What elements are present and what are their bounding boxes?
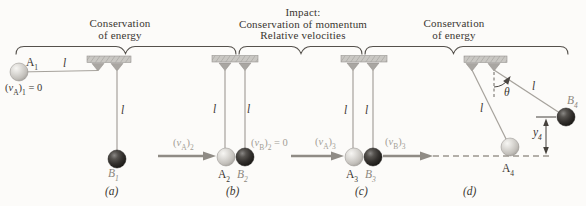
theta-label: θ [504,86,510,98]
caption-c: (c) [355,185,368,197]
string-length-label-a-vertical: l [121,104,124,116]
ball-b3-label: B3 [365,168,376,180]
ball-a3 [345,148,363,166]
header-conservation-energy-right: Conservation of energy [393,18,515,41]
ball-b2-label: B2 [237,168,248,180]
ball-b1 [108,150,126,168]
arrow-va3 [291,152,344,161]
caption-a: (a) [105,185,118,197]
support-b [212,56,258,71]
arrow-vb3 [383,152,433,161]
ball-a4-label: A4 [502,162,514,174]
ball-b4-label: B4 [567,94,578,106]
ball-b4 [557,108,575,126]
ball-a4 [501,138,519,156]
string-length-label-b-left: l [213,103,216,115]
velocity-label-va1: (vA)1 = 0 [5,82,42,93]
ball-a3-label: A3 [346,168,358,180]
string-length-label-b-right: l [247,103,250,115]
ball-b1-label: B1 [108,167,119,179]
caption-b: (b) [226,185,239,197]
string-length-label-d-right: l [532,80,535,92]
caption-d: (d) [463,185,476,197]
velocity-label-va3: (vA)3 [315,136,336,147]
ball-a1-label: A1 [26,56,38,68]
ball-a2 [217,148,235,166]
string-length-label-a-horizontal: l [63,57,66,69]
support-a [87,56,131,71]
y4-height-label: y4 [533,126,542,138]
brace-conservation-energy-right [365,47,568,55]
header-conservation-energy-left: Conservation of energy [59,18,181,41]
brace-impact-middle [239,47,362,55]
velocity-label-vb3: (vB)3 [385,136,405,147]
brace-conservation-energy-left [16,47,236,55]
string-length-label-d-left: l [480,102,483,114]
support-c [341,56,387,71]
velocity-label-vb2: (vB)2 = 0 [251,137,288,148]
support-d [464,56,507,71]
arrow-va2 [158,152,216,161]
ball-b3 [364,148,382,166]
ball-b2 [236,148,254,166]
string-a-horizontal [19,71,98,73]
string-length-label-c-left: l [344,104,347,116]
string-length-label-c-right: l [365,104,368,116]
ball-a2-label: A2 [218,168,230,180]
velocity-label-va2: (vA)2 [173,137,194,148]
pendulum-impact-figure: Conservation of energy Impact: Conservat… [0,0,586,206]
header-impact: Impact: Conservation of momentum Relativ… [228,7,378,42]
